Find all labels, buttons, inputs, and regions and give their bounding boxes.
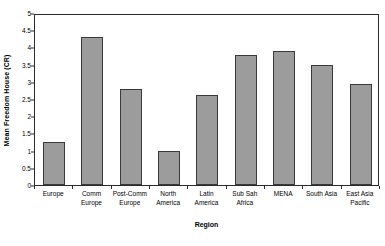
bar-slot bbox=[342, 15, 380, 185]
plot-area bbox=[34, 14, 379, 186]
bar[interactable] bbox=[311, 65, 333, 185]
x-axis-tick-mark bbox=[226, 186, 227, 189]
bar[interactable] bbox=[158, 151, 180, 185]
bar[interactable] bbox=[235, 55, 257, 185]
bar[interactable] bbox=[350, 84, 372, 185]
bar-chart-figure: Mean Freedom House (CR) 00.511.522.533.5… bbox=[0, 0, 385, 246]
y-axis-tick-mark bbox=[31, 14, 34, 15]
bar-slot bbox=[227, 15, 265, 185]
bar-slot bbox=[265, 15, 303, 185]
y-axis-tick-mark bbox=[31, 117, 34, 118]
y-axis-title-text: Mean Freedom House (CR) bbox=[4, 54, 11, 146]
bar[interactable] bbox=[273, 51, 295, 185]
x-axis-tick-label: East Asia Pacific bbox=[333, 190, 385, 207]
y-axis-tick-label: 1.5 bbox=[22, 131, 31, 138]
y-axis-tick-label: 3.5 bbox=[22, 62, 31, 69]
y-axis-tick-mark bbox=[31, 134, 34, 135]
x-axis-tick-mark bbox=[187, 186, 188, 189]
y-axis-tick-label: 2.5 bbox=[22, 97, 31, 104]
bar-slot bbox=[112, 15, 150, 185]
y-axis-tick-mark bbox=[31, 65, 34, 66]
bar-slot bbox=[73, 15, 111, 185]
x-axis-tick-mark bbox=[341, 186, 342, 189]
x-axis-tick-mark bbox=[264, 186, 265, 189]
y-axis-tick-label: 4.5 bbox=[22, 28, 31, 35]
y-axis-title: Mean Freedom House (CR) bbox=[0, 0, 14, 200]
bar[interactable] bbox=[120, 89, 142, 185]
x-axis-tick-mark bbox=[72, 186, 73, 189]
bar[interactable] bbox=[81, 37, 103, 185]
x-axis-tick-mark bbox=[34, 186, 35, 189]
x-axis-tick-mark bbox=[149, 186, 150, 189]
y-axis-tick-label: 0.5 bbox=[22, 166, 31, 173]
x-axis-tick-mark bbox=[111, 186, 112, 189]
y-axis-tick-mark bbox=[31, 48, 34, 49]
x-axis-title: Region bbox=[34, 221, 379, 228]
bar[interactable] bbox=[196, 95, 218, 185]
y-axis-tick-mark bbox=[31, 82, 34, 83]
x-axis-tick-mark bbox=[302, 186, 303, 189]
bar-slot bbox=[150, 15, 188, 185]
y-axis-tick-mark bbox=[31, 168, 34, 169]
x-axis-tick-mark bbox=[379, 186, 380, 189]
bar[interactable] bbox=[43, 142, 65, 185]
y-axis-tick-mark bbox=[31, 100, 34, 101]
y-axis-tick-mark bbox=[31, 151, 34, 152]
bars-layer bbox=[35, 15, 378, 185]
bar-slot bbox=[188, 15, 226, 185]
bar-slot bbox=[303, 15, 341, 185]
bar-slot bbox=[35, 15, 73, 185]
y-axis-tick-mark bbox=[31, 31, 34, 32]
x-axis-tick-labels: EuropeComm EuropePost-Comm EuropeNorth A… bbox=[34, 190, 379, 220]
